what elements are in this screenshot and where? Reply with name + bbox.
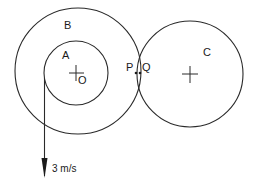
point-p-dot [135,72,138,75]
label-b: B [64,19,71,31]
point-q-dot [139,72,142,75]
center-cross-c-icon [182,66,198,83]
pulley-gear-diagram: B A O P Q C 3 m/s [0,0,255,188]
arrow-down-icon [42,158,48,178]
label-a: A [62,49,70,61]
label-c: C [203,46,211,58]
label-p: P [126,61,133,73]
label-velocity: 3 m/s [52,163,76,174]
label-o: O [78,74,87,86]
circle-b [15,8,141,134]
label-q: Q [142,61,151,73]
